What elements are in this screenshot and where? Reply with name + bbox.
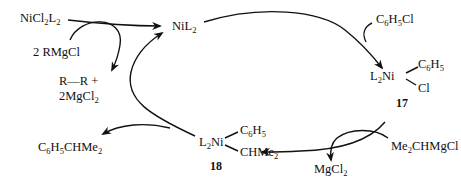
byproduct-line2-label: 2MgCl2 [59, 90, 99, 103]
precatalyst-label: NiCl2L2 [20, 12, 60, 25]
bond-18-top [225, 132, 238, 138]
bond-17-bottom [406, 79, 416, 85]
product-release-arrow [103, 125, 170, 134]
intermediate-18-ligand-top: C6H5 [240, 124, 266, 137]
substrate-curve [364, 23, 372, 42]
oxidative-addition-arrow [204, 12, 382, 68]
intermediate-17-core: L2Ni [370, 70, 394, 83]
intermediate-17-ligand-top: C6H5 [418, 58, 444, 71]
product-label: C6H5CHMe2 [38, 141, 102, 154]
grignard-label: Me2CHMgCl [391, 140, 458, 153]
reductive-elimination-arrow [130, 33, 195, 136]
catalyst-label: NiL2 [172, 20, 196, 33]
reducing-reagent-label: 2 RMgCl [33, 46, 80, 59]
activation-arrow [68, 20, 160, 26]
salt-byproduct-label: MgCl2 [314, 163, 347, 176]
intermediate-18-ligand-bottom: CHMe2 [240, 146, 278, 159]
transmetalation-arrow [262, 122, 385, 152]
substrate-label: C6H5Cl [376, 13, 414, 26]
grignard-curve-arrow [331, 131, 388, 161]
intermediate-18-core: L2Ni [199, 136, 223, 149]
bond-17-top [406, 67, 418, 73]
byproduct-line1-label: R—R + [59, 75, 98, 88]
compound-number-18: 18 [210, 160, 222, 172]
compound-number-17: 17 [396, 97, 408, 109]
intermediate-17-ligand-bottom: Cl [418, 82, 430, 95]
bond-18-bottom [225, 145, 238, 151]
